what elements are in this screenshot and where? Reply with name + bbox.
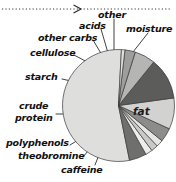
callout-label-crude: crude (19, 101, 48, 112)
pie-graphic (62, 49, 175, 162)
callout-label-other: other (98, 10, 126, 21)
callout-label-theobromine: theobromine (18, 151, 84, 162)
callout-label-acids: acids (79, 21, 106, 32)
callout-label-protein: protein (15, 113, 53, 124)
pie-svg (62, 49, 175, 162)
callout-label-polyphenols: polyphenols (6, 138, 69, 149)
pie-slices (63, 50, 175, 162)
callout-label-cellulose: cellulose (30, 48, 75, 59)
pie-chart-figure: fat other acids moisture other carbs cel… (0, 0, 176, 182)
callout-label-starch: starch (25, 72, 58, 83)
dotted-arrow-rule (0, 4, 176, 14)
callout-label-other-carbs: other carbs (38, 33, 97, 44)
callout-label-caffeine: caffeine (61, 165, 103, 176)
callout-label-moisture: moisture (126, 24, 172, 35)
slice-label-fat: fat (133, 105, 150, 117)
